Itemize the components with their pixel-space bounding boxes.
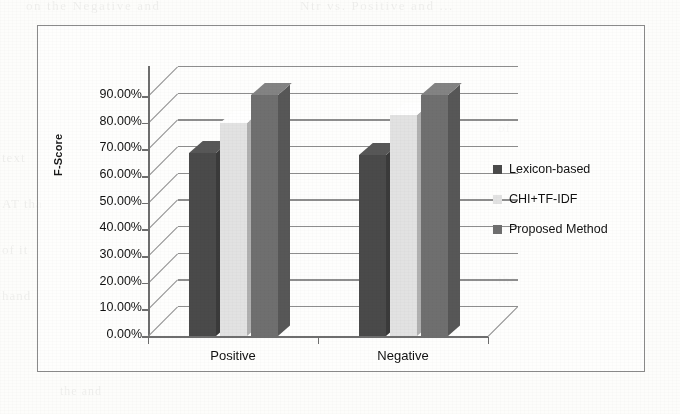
y-axis-tick-labels: 90.00%80.00%70.00%60.00%50.00%40.00%30.0…: [66, 26, 142, 373]
ghost-text-top-right: Ntr vs. Positive and ...: [300, 0, 454, 14]
x-axis-category-label: Negative: [318, 348, 488, 363]
bar-front-face: [359, 155, 386, 336]
bar: [251, 95, 278, 336]
ghost-text-bottom: the and: [60, 384, 102, 399]
legend-label: Lexicon-based: [509, 162, 590, 176]
legend-item[interactable]: CHI+TF-IDF: [493, 184, 608, 214]
chart-frame: F-Score 90.00%80.00%70.00%60.00%50.00%40…: [37, 25, 645, 372]
floor-left-edge: [148, 306, 179, 337]
ghost-text-left-3: of it: [2, 242, 28, 258]
gridline-riser: [148, 120, 179, 151]
gridline-riser: [148, 253, 179, 284]
gridline-riser: [148, 226, 179, 257]
x-axis-tick-mark: [488, 337, 489, 344]
bar-front-face: [220, 123, 247, 336]
gridline-riser: [148, 146, 179, 177]
legend-swatch-icon: [493, 165, 502, 174]
bar-front-face: [251, 95, 278, 336]
bar-side-face: [448, 84, 460, 336]
gridline-riser: [148, 200, 179, 231]
bar: [189, 153, 216, 336]
y-axis-tick-label: 90.00%: [66, 87, 142, 101]
legend-item[interactable]: Lexicon-based: [493, 154, 608, 184]
x-axis-tick-mark: [148, 337, 149, 344]
y-axis-tick-label: 0.00%: [66, 327, 142, 341]
gridline-riser: [148, 280, 179, 311]
gridline: [178, 93, 518, 94]
legend-label: Proposed Method: [509, 222, 608, 236]
bar-front-face: [421, 95, 448, 336]
gridline-riser: [148, 173, 179, 204]
y-axis-tick-label: 30.00%: [66, 247, 142, 261]
y-axis-tick-label: 50.00%: [66, 194, 142, 208]
ghost-text-top-left: on the Negative and: [26, 0, 161, 14]
bar: [421, 95, 448, 336]
y-axis-tick-label: 10.00%: [66, 300, 142, 314]
legend-swatch-icon: [493, 225, 502, 234]
bar-front-face: [189, 153, 216, 336]
bar: [220, 123, 247, 336]
gridline-riser: [148, 66, 179, 97]
y-axis-tick-label: 20.00%: [66, 274, 142, 288]
y-axis-tick-label: 60.00%: [66, 167, 142, 181]
x-axis-tick-mark: [318, 337, 319, 344]
legend-label: CHI+TF-IDF: [509, 192, 577, 206]
plot-area: F-Score 90.00%80.00%70.00%60.00%50.00%40…: [38, 26, 646, 373]
legend-swatch-icon: [493, 195, 502, 204]
legend: Lexicon-basedCHI+TF-IDFProposed Method: [493, 154, 608, 244]
y-axis-tick-label: 40.00%: [66, 220, 142, 234]
y-axis-title: F-Score: [52, 134, 64, 176]
y-axis-tick-label: 80.00%: [66, 114, 142, 128]
ghost-text-left-4: hand: [2, 288, 31, 304]
floor-right-edge: [488, 306, 519, 337]
y-axis-line: [148, 66, 150, 336]
gridline: [178, 66, 518, 67]
y-axis-tick-label: 70.00%: [66, 140, 142, 154]
ghost-text-left-1: text: [2, 150, 26, 166]
gridline-riser: [148, 93, 179, 124]
bar: [390, 115, 417, 336]
bar: [359, 155, 386, 336]
bar-front-face: [390, 115, 417, 336]
bar-side-face: [278, 84, 290, 336]
legend-item[interactable]: Proposed Method: [493, 214, 608, 244]
x-axis-category-label: Positive: [148, 348, 318, 363]
